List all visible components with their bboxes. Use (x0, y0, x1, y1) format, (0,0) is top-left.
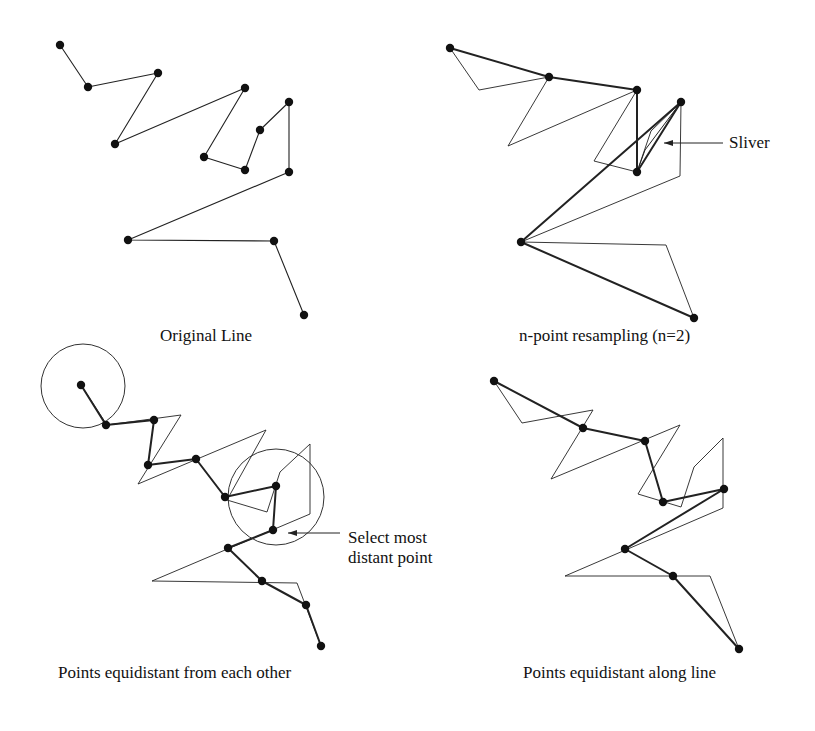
vertex-point (545, 73, 553, 81)
vertex-point (224, 544, 232, 552)
vertex-point (633, 86, 641, 94)
select-distant-label-line2: distant point (348, 548, 433, 568)
vertex-point (633, 168, 641, 176)
vertex-point (302, 601, 310, 609)
arrowhead-icon (664, 140, 673, 146)
caption-n-point-resampling: n-point resampling (n=2) (519, 326, 690, 346)
vertex-point (677, 98, 685, 106)
vertex-point (285, 98, 293, 106)
vertex-point (269, 526, 277, 534)
vertex-point (256, 126, 264, 134)
vertex-point (144, 461, 152, 469)
resampled-line (81, 385, 321, 646)
caption-original-line: Original Line (160, 326, 252, 346)
vertex-point (641, 437, 649, 445)
select-distant-label: Select most distant point (348, 528, 433, 568)
vertex-point (150, 416, 158, 424)
sliver-label: Sliver (729, 133, 770, 153)
vertex-point (241, 84, 249, 92)
vertex-point (221, 493, 229, 501)
original-line-thin (450, 48, 694, 318)
arrowhead-icon (288, 530, 297, 536)
vertex-point (300, 311, 308, 319)
vertex-point (272, 482, 280, 490)
caption-equidistant-along-line: Points equidistant along line (523, 663, 716, 683)
vertex-point (690, 314, 698, 322)
vertex-point (200, 153, 208, 161)
select-distant-label-line1: Select most (348, 528, 433, 548)
vertex-point (84, 83, 92, 91)
vertex-point (720, 485, 728, 493)
vertex-point (490, 377, 498, 385)
vertex-point (669, 572, 677, 580)
vertex-point (517, 238, 525, 246)
original-line (60, 45, 304, 315)
vertex-point (579, 424, 587, 432)
vertex-point (111, 140, 119, 148)
vertex-point (621, 545, 629, 553)
vertex-point (241, 166, 249, 174)
vertex-point (446, 44, 454, 52)
vertex-point (154, 69, 162, 77)
vertex-point (192, 455, 200, 463)
vertex-point (735, 645, 743, 653)
vertex-point (56, 41, 64, 49)
caption-equidistant-each-other: Points equidistant from each other (58, 663, 291, 683)
vertex-point (77, 381, 85, 389)
vertex-point (102, 421, 110, 429)
vertex-point (270, 237, 278, 245)
vertex-point (258, 577, 266, 585)
vertex-point (285, 168, 293, 176)
resampling-diagram (0, 0, 815, 731)
vertex-point (317, 642, 325, 650)
vertex-point (124, 236, 132, 244)
vertex-point (659, 498, 667, 506)
